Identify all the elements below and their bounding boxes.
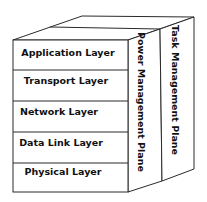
plane-power-management: Power Management Plane (136, 32, 147, 172)
layer-physical: Physical Layer (25, 166, 102, 177)
layer-network: Network Layer (20, 106, 98, 117)
layer-application: Application Layer (21, 47, 115, 58)
protocol-stack-diagram: Application Layer Transport Layer Networ… (0, 0, 207, 202)
layer-transport: Transport Layer (24, 75, 109, 86)
plane-task-management: Task Management Plane (170, 25, 181, 155)
layer-data-link: Data Link Layer (19, 137, 103, 148)
